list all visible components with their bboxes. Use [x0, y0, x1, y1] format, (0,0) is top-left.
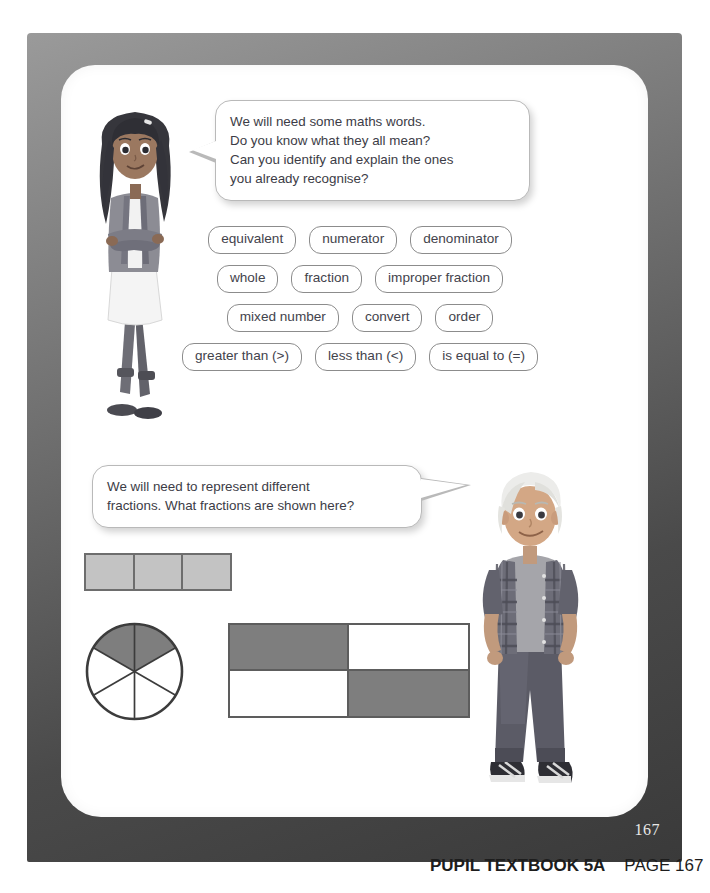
circle-svg [83, 620, 186, 723]
bar-cell [86, 555, 135, 589]
boy-illustration [465, 462, 595, 790]
grid-cell-empty [349, 625, 468, 671]
vocab-pill-equivalent[interactable]: equivalent [208, 226, 296, 254]
quarters-rectangle-diagram [228, 623, 470, 718]
page-number: 167 [635, 821, 661, 839]
bubble-tail-inner-icon [421, 479, 466, 498]
vocab-pill-greater-than[interactable]: greater than (>) [182, 343, 302, 371]
vocab-pill-fraction[interactable]: fraction [291, 265, 362, 293]
figure-caption: PUPIL TEXTBOOK 5A PAGE 167 [430, 856, 703, 876]
grid-cell-shaded [349, 671, 468, 717]
sixths-circle-diagram [83, 620, 186, 723]
vocab-pill-numerator[interactable]: numerator [309, 226, 397, 254]
caption-book-title: PUPIL TEXTBOOK 5A [430, 856, 605, 875]
bubble-line: Do you know what they all mean? [230, 131, 515, 150]
vocab-pill-order[interactable]: order [435, 304, 493, 332]
vocabulary-row: whole fraction improper fraction [150, 265, 570, 293]
bubble-line: fractions. What fractions are shown here… [107, 496, 407, 515]
vocab-pill-whole[interactable]: whole [217, 265, 279, 293]
fractions-speech-bubble: We will need to represent different frac… [92, 465, 422, 528]
bar-cell [135, 555, 184, 589]
caption-page-ref: PAGE 167 [624, 856, 703, 875]
vocabulary-row: mixed number convert order [150, 304, 570, 332]
bubble-line: Can you identify and explain the ones [230, 150, 515, 169]
grid-cell-shaded [230, 625, 349, 671]
vocab-pill-improper-fraction[interactable]: improper fraction [375, 265, 503, 293]
boy-character [465, 462, 595, 790]
bubble-tail-inner-icon [192, 141, 216, 159]
vocab-pill-convert[interactable]: convert [352, 304, 423, 332]
vocabulary-row: greater than (>) less than (<) is equal … [150, 343, 570, 371]
vocab-pill-is-equal-to[interactable]: is equal to (=) [429, 343, 538, 371]
vocabulary-word-list: equivalent numerator denominator whole f… [150, 226, 570, 382]
vocab-pill-less-than[interactable]: less than (<) [315, 343, 416, 371]
three-part-bar-diagram [84, 553, 232, 591]
maths-words-speech-bubble: We will need some maths words. Do you kn… [215, 100, 530, 201]
bubble-line: We will need to represent different [107, 477, 407, 496]
bubble-line: you already recognise? [230, 169, 515, 188]
bar-cell [183, 555, 230, 589]
grid-cell-empty [230, 671, 349, 717]
bubble-line: We will need some maths words. [230, 112, 515, 131]
vocabulary-row: equivalent numerator denominator [150, 226, 570, 254]
vocab-pill-denominator[interactable]: denominator [410, 226, 512, 254]
vocab-pill-mixed-number[interactable]: mixed number [227, 304, 339, 332]
shaded-sector [93, 620, 178, 683]
